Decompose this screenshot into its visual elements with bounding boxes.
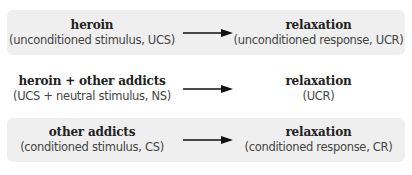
stimulus-label: heroin xyxy=(71,18,114,33)
response-sublabel: (conditioned response, CR) xyxy=(245,140,393,155)
response-cell: relaxation (UCR) xyxy=(232,65,405,112)
response-sublabel: (unconditioned response, UCR) xyxy=(233,33,403,48)
stimulus-cell: other addicts (conditioned stimulus, CS) xyxy=(7,118,177,162)
conditioning-row-during: heroin + other addicts (UCS + neutral st… xyxy=(7,65,405,112)
stimulus-sublabel: (unconditioned stimulus, UCS) xyxy=(9,33,175,48)
response-cell: relaxation (unconditioned response, UCR) xyxy=(232,10,405,55)
stimulus-sublabel: (UCS + neutral stimulus, NS) xyxy=(13,89,171,104)
conditioning-row-after: other addicts (conditioned stimulus, CS)… xyxy=(7,118,405,162)
right-arrow-icon xyxy=(183,135,233,145)
response-sublabel: (UCR) xyxy=(303,89,335,104)
right-arrow-icon xyxy=(183,84,233,94)
response-label: relaxation xyxy=(285,74,351,89)
stimulus-cell: heroin + other addicts (UCS + neutral st… xyxy=(7,65,177,112)
response-label: relaxation xyxy=(285,18,351,33)
right-arrow-icon xyxy=(183,28,233,38)
stimulus-label: other addicts xyxy=(49,125,136,140)
stimulus-label: heroin + other addicts xyxy=(18,74,165,89)
response-cell: relaxation (conditioned response, CR) xyxy=(232,118,405,162)
response-label: relaxation xyxy=(285,125,351,140)
stimulus-cell: heroin (unconditioned stimulus, UCS) xyxy=(7,10,177,55)
stimulus-sublabel: (conditioned stimulus, CS) xyxy=(20,140,164,155)
conditioning-row-before: heroin (unconditioned stimulus, UCS) rel… xyxy=(7,10,405,55)
